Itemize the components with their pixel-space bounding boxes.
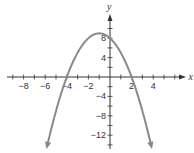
x-axis-arrow-icon [179, 75, 186, 80]
left-arrowhead-icon [45, 141, 51, 149]
y-axis-label: y [106, 1, 112, 12]
y-axis-arrow-icon [108, 14, 113, 21]
y-tick-label: 4 [101, 53, 106, 63]
x-tick-label: −8 [18, 81, 28, 91]
right-arrowhead-icon [147, 141, 153, 149]
x-tick-label: −6 [40, 81, 50, 91]
parabola-chart: xy −8−6−4−22484−4−8−12 [0, 0, 193, 153]
x-tick-label: 4 [151, 81, 156, 91]
x-axis-label: x [188, 71, 194, 82]
y-tick-label: −4 [96, 91, 106, 101]
y-tick-label: −8 [96, 111, 106, 121]
axes: xy [7, 1, 193, 149]
y-tick-label: −12 [91, 130, 106, 140]
x-tick-label: −2 [83, 81, 93, 91]
